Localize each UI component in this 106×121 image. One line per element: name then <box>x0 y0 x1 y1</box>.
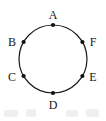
vertex-dot-c <box>22 74 26 78</box>
vertex-label-a: A <box>49 9 58 21</box>
vertex-label-d: D <box>49 99 58 111</box>
vertex-dot-a <box>51 23 55 27</box>
vertex-label-b: B <box>8 36 16 48</box>
circle-diagram-figure: AFEDCB <box>0 0 106 121</box>
vertex-dot-f <box>80 40 84 44</box>
vertex-label-c: C <box>8 71 16 83</box>
vertex-dot-b <box>22 40 26 44</box>
vertex-dot-d <box>51 91 55 95</box>
vertex-label-e: E <box>89 71 96 83</box>
vertex-label-f: F <box>90 36 97 48</box>
circle-outline <box>19 25 87 93</box>
vertex-dot-e <box>80 74 84 78</box>
